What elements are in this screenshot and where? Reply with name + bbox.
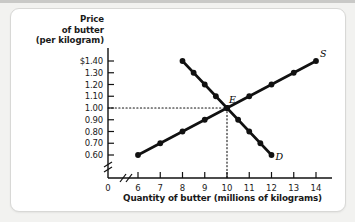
x-axis-tick-label: 11 xyxy=(239,183,259,193)
x-axis-tick-label: 10 xyxy=(217,183,237,193)
data-point-d-2 xyxy=(202,82,208,88)
x-axis-tick-label: 14 xyxy=(306,183,326,193)
x-axis-tick-label: 8 xyxy=(173,183,193,193)
data-point-d-4 xyxy=(224,105,230,111)
y-axis-tick-label: 0.70 xyxy=(59,138,103,148)
data-point-s-2 xyxy=(180,129,186,135)
y-axis-tick-label: 0.60 xyxy=(59,150,103,160)
data-point-s-5 xyxy=(246,93,252,99)
y-axis-tick-label: 1.30 xyxy=(59,68,103,78)
y-axis-tick-label: $1.40 xyxy=(59,56,103,66)
data-point-s-0 xyxy=(135,152,141,158)
data-point-d-3 xyxy=(213,93,219,99)
origin-label: 0 xyxy=(98,183,118,193)
data-point-s-8 xyxy=(313,58,319,64)
data-point-d-1 xyxy=(191,70,197,76)
data-point-d-0 xyxy=(180,58,186,64)
data-point-s-6 xyxy=(269,82,275,88)
y-axis-tick-label: 1.00 xyxy=(59,103,103,113)
figure-container: Price of butter (per kilogram) Quantity … xyxy=(0,0,355,222)
x-axis-tick-label: 7 xyxy=(150,183,170,193)
y-axis-tick-label: 1.10 xyxy=(59,91,103,101)
y-axis-tick-label: 0.90 xyxy=(59,115,103,125)
data-point-d-5 xyxy=(235,117,241,123)
x-axis-tick-label: 13 xyxy=(284,183,304,193)
y-axis-tick-label: 0.80 xyxy=(59,127,103,137)
x-axis-tick-label: 6 xyxy=(128,183,148,193)
data-point-d-8 xyxy=(269,152,275,158)
equilibrium-point-label: E xyxy=(229,94,236,105)
supply-curve-label: S xyxy=(320,48,327,59)
data-point-s-1 xyxy=(157,140,163,146)
y-axis-tick-label: 1.20 xyxy=(59,80,103,90)
demand-curve-label: D xyxy=(276,151,284,162)
data-point-s-3 xyxy=(202,117,208,123)
data-point-s-7 xyxy=(291,70,297,76)
x-axis-tick-label: 9 xyxy=(195,183,215,193)
x-axis-tick-label: 12 xyxy=(262,183,282,193)
data-point-d-7 xyxy=(257,140,263,146)
data-point-d-6 xyxy=(246,129,252,135)
